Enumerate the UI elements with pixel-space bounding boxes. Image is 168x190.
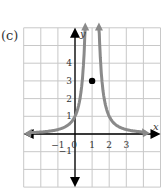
y-tick-label: 2	[66, 94, 72, 104]
tick-labels: −101234321−1	[51, 58, 129, 156]
graph: −101234321−1 x y	[0, 0, 168, 190]
curve-right-arrow-icon	[142, 128, 150, 137]
x-tick-label: 0	[71, 140, 77, 150]
x-axis-label: x	[153, 121, 159, 132]
curve-left-arrow-icon	[24, 129, 32, 138]
point-marker	[89, 78, 95, 84]
y-axis-up-arrow-icon	[70, 28, 80, 38]
curve-arrows	[24, 23, 150, 138]
curve-top-right-arrow-icon	[95, 23, 103, 31]
y-tick-label: 1	[66, 111, 72, 121]
grid	[24, 28, 161, 187]
x-tick-label: 3	[123, 140, 129, 150]
y-tick-label: −1	[59, 146, 72, 156]
y-tick-label: 3	[66, 76, 72, 86]
x-tick-label: 2	[106, 140, 112, 150]
x-tick-label: 1	[89, 140, 95, 150]
y-axis-down-arrow-icon	[70, 177, 80, 187]
y-axis-label: y	[79, 28, 86, 39]
y-tick-label: 4	[66, 58, 72, 68]
